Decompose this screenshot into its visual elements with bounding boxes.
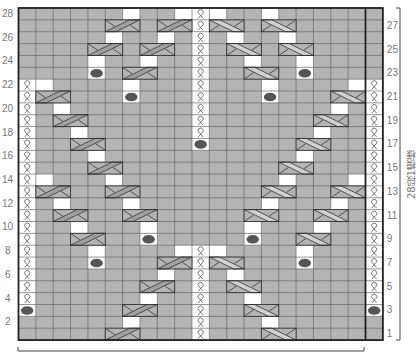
row-label-left: 18 xyxy=(2,127,13,138)
row-label-right: 21 xyxy=(387,91,398,102)
row-label-right: 23 xyxy=(387,67,398,78)
row-label-right: 17 xyxy=(387,138,398,149)
white-cell xyxy=(88,245,105,257)
white-cell xyxy=(279,174,296,186)
row-label-right: 25 xyxy=(387,44,398,55)
white-cell xyxy=(261,79,278,91)
white-cell xyxy=(227,32,244,44)
white-cell xyxy=(53,103,70,115)
bobble-icon xyxy=(125,93,137,102)
white-cell xyxy=(123,8,140,20)
white-cell xyxy=(296,245,313,257)
white-cell xyxy=(53,198,70,210)
bobble-icon xyxy=(90,69,102,78)
white-cell xyxy=(88,55,105,67)
row-label-right: 1 xyxy=(387,328,393,339)
white-cell xyxy=(157,32,174,44)
white-cell xyxy=(71,221,88,233)
row-label-left: 22 xyxy=(2,79,13,90)
white-cell xyxy=(123,198,140,210)
row-label-right: 15 xyxy=(387,162,398,173)
repeat-label: 28段1模様 xyxy=(404,150,418,199)
bobble-icon xyxy=(142,235,154,244)
bobble-icon xyxy=(299,69,311,78)
row-label-right: 9 xyxy=(387,233,393,244)
bobble-icon xyxy=(264,93,276,102)
row-label-right: 27 xyxy=(387,20,398,31)
white-cell xyxy=(157,269,174,281)
white-cell xyxy=(123,79,140,91)
row-label-left: 26 xyxy=(2,32,13,43)
white-cell xyxy=(140,293,157,305)
white-cell xyxy=(279,32,296,44)
row-label-left: 16 xyxy=(2,150,13,161)
row-label-right: 3 xyxy=(387,304,393,315)
knitting-chart xyxy=(0,0,418,360)
white-cell xyxy=(244,293,261,305)
white-cell xyxy=(261,8,278,20)
white-cell xyxy=(296,55,313,67)
white-cell xyxy=(261,316,278,328)
row-label-right: 13 xyxy=(387,186,398,197)
bobble-icon xyxy=(21,306,33,315)
row-label-left: 6 xyxy=(5,269,11,280)
row-label-right: 11 xyxy=(387,210,397,221)
white-cell xyxy=(296,150,313,162)
white-cell xyxy=(71,127,88,139)
row-label-left: 2 xyxy=(5,316,11,327)
row-label-left: 4 xyxy=(5,293,11,304)
row-label-left: 20 xyxy=(2,103,13,114)
white-cell xyxy=(244,55,261,67)
bobble-icon xyxy=(246,235,258,244)
white-cell xyxy=(140,221,157,233)
bobble-icon xyxy=(299,259,311,268)
white-cell xyxy=(313,127,330,139)
white-cell xyxy=(105,174,122,186)
white-cell xyxy=(36,174,53,186)
row-label-left: 14 xyxy=(2,174,13,185)
white-cell xyxy=(261,198,278,210)
bobble-icon xyxy=(90,259,102,268)
white-cell xyxy=(105,32,122,44)
row-label-left: 24 xyxy=(2,55,13,66)
white-cell xyxy=(140,55,157,67)
bobble-icon xyxy=(194,140,206,149)
white-cell xyxy=(348,79,365,91)
white-cell xyxy=(227,269,244,281)
white-cell xyxy=(313,221,330,233)
white-cell xyxy=(36,79,53,91)
row-label-left: 10 xyxy=(2,221,13,232)
white-cell xyxy=(209,8,226,20)
white-cell xyxy=(175,8,192,20)
white-cell xyxy=(175,245,192,257)
white-cell xyxy=(331,198,348,210)
white-cell xyxy=(348,174,365,186)
row-label-left: 12 xyxy=(2,198,13,209)
white-cell xyxy=(123,316,140,328)
row-label-right: 5 xyxy=(387,281,393,292)
white-cell xyxy=(88,150,105,162)
bobble-icon xyxy=(368,306,380,315)
white-cell xyxy=(331,103,348,115)
row-label-left: 28 xyxy=(2,8,13,19)
white-cell xyxy=(244,221,261,233)
row-label-right: 19 xyxy=(387,115,398,126)
white-cell xyxy=(209,245,226,257)
row-label-right: 7 xyxy=(387,257,393,268)
row-label-left: 8 xyxy=(5,245,11,256)
